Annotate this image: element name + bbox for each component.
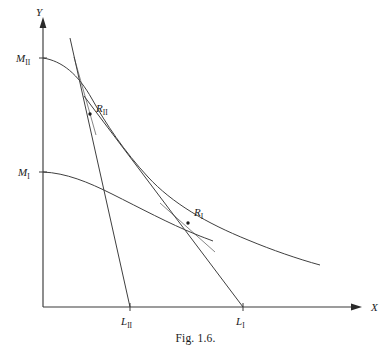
label-l2-base: L — [120, 315, 127, 327]
figure-container: Y X MII MI RII RI — [0, 0, 391, 356]
point-marker-r1 — [186, 221, 189, 224]
label-m2-sub: II — [25, 58, 30, 67]
label-l1-sub: I — [242, 321, 245, 330]
label-r2-sub: II — [103, 108, 108, 117]
label-l1-base: L — [235, 315, 242, 327]
point-marker-r2 — [88, 112, 91, 115]
y-axis-label: Y — [36, 6, 44, 18]
label-l1: LI — [235, 315, 245, 330]
tangent-stroke-r2 — [74, 57, 96, 135]
label-l2-sub: II — [127, 321, 132, 330]
figure-caption: Fig. 1.6. — [0, 332, 391, 344]
y-axis-arrowhead — [40, 17, 47, 28]
label-m1: MI — [17, 166, 30, 181]
budget-line-l2 — [70, 38, 130, 307]
label-m1-sub: I — [27, 172, 30, 181]
x-axis-label: X — [370, 301, 379, 313]
tangent-stroke-r1 — [160, 203, 215, 252]
indifference-curve-m2 — [43, 58, 320, 265]
x-axis-arrowhead — [351, 304, 362, 311]
label-r1-sub: I — [201, 212, 204, 221]
label-r1: RI — [193, 206, 204, 221]
indifference-curve-m1 — [43, 172, 213, 241]
figure-canvas: Y X MII MI RII RI — [0, 0, 391, 356]
label-l2: LII — [120, 315, 133, 330]
label-m2: MII — [15, 52, 31, 67]
budget-line-l1 — [84, 96, 243, 307]
